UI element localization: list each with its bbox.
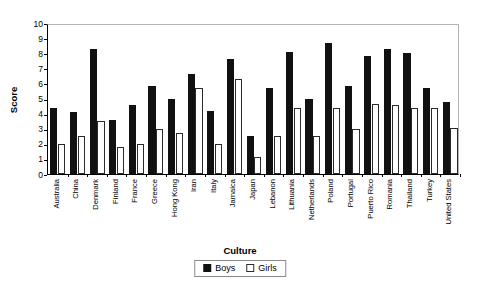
bar-boys-iran (188, 74, 195, 174)
bar-boys-turkey (423, 88, 430, 174)
x-axis-tick-label: Lithuania (285, 177, 299, 243)
bar-girls-portugal (352, 129, 359, 174)
x-axis-tick-label-text: Thailand (406, 179, 414, 208)
x-axis-tick-label-text: Portugal (347, 179, 355, 207)
x-axis-tick-label-text: Netherlands (308, 179, 316, 220)
x-axis-tick-label: Netherlands (305, 177, 319, 243)
y-axis-tick-label: 4 (23, 110, 43, 119)
bar-girls-puerto-rico (372, 104, 379, 174)
y-axis-tick-label: 6 (23, 80, 43, 89)
bar-boys-thailand (403, 53, 410, 174)
x-axis-tick-label-text: Lebanon (269, 179, 277, 209)
x-axis-tick-label: United States (442, 177, 456, 243)
x-axis-tick-label: Hong Kong (168, 177, 182, 243)
bar-girls-denmark (97, 121, 104, 174)
bar-boys-australia (50, 108, 57, 174)
legend-item-label: Boys (215, 263, 235, 273)
y-axis-tick-mark (44, 145, 47, 146)
y-axis-tick-mark (44, 115, 47, 116)
bar-girls-iran (195, 88, 202, 174)
hollow-white-square-icon (246, 264, 254, 272)
bar-girls-lebanon (274, 136, 281, 175)
y-axis-tick-label: 0 (23, 171, 43, 180)
x-axis-tick-label: Finland (109, 177, 123, 243)
x-axis-tick-mark (460, 174, 461, 177)
bar-girls-australia (58, 144, 65, 174)
x-axis-title: Culture (0, 245, 480, 256)
bar-boys-puerto-rico (364, 56, 371, 174)
bar-girls-japan (254, 157, 261, 174)
bar-girls-greece (156, 129, 163, 174)
bar-boys-china (70, 112, 77, 174)
bar-girls-italy (215, 144, 222, 174)
bar-boys-poland (325, 43, 332, 174)
x-axis-tick-label: Turkey (423, 177, 437, 243)
plot-inner (48, 25, 458, 174)
y-axis-title: Score (6, 60, 20, 140)
x-axis-tick-label: Romania (383, 177, 397, 243)
legend-item-girls: Girls (246, 263, 277, 273)
x-axis-tick-label: Lebanon (266, 177, 280, 243)
legend-item-boys: Boys (203, 263, 235, 273)
x-axis-tick-label: Poland (324, 177, 338, 243)
y-axis-tick-mark (44, 160, 47, 161)
x-axis-tick-label-text: Turkey (426, 179, 434, 202)
x-axis-tick-label-text: Japan (249, 179, 257, 200)
x-axis-tick-label-text: Hong Kong (171, 179, 179, 217)
bar-girls-hong-kong (176, 133, 183, 174)
y-axis-tick-mark (44, 69, 47, 70)
y-axis-tick-label: 5 (23, 95, 43, 104)
bar-girls-turkey (431, 108, 438, 174)
y-axis-tick-label: 2 (23, 140, 43, 149)
x-axis-tick-label-text: Australia (53, 179, 61, 209)
bar-boys-portugal (345, 86, 352, 174)
x-axis-tick-label: Italy (207, 177, 221, 243)
bar-boys-japan (247, 136, 254, 174)
bar-girls-france (137, 144, 144, 174)
x-axis-tick-label-text: United States (445, 179, 453, 225)
x-axis-tick-label: China (69, 177, 83, 243)
x-axis-tick-label-text: Poland (327, 179, 335, 203)
x-axis-tick-label-text: Jamaica (229, 179, 237, 207)
plot-area (47, 24, 459, 175)
x-axis-tick-label: Iran (187, 177, 201, 243)
chart-legend: BoysGirls (194, 260, 286, 277)
x-axis-tick-label-text: Finland (112, 179, 120, 204)
x-axis-tick-label-text: Iran (190, 179, 198, 192)
filled-black-square-icon (203, 264, 211, 272)
x-axis-tick-label: Puerto Rico (364, 177, 378, 243)
x-axis-tick-label-text: Romania (386, 179, 394, 209)
y-axis-tick-label: 9 (23, 35, 43, 44)
bar-boys-romania (384, 49, 391, 174)
bar-girls-romania (392, 105, 399, 174)
x-axis-tick-label: Portugal (344, 177, 358, 243)
bar-girls-lithuania (294, 108, 301, 174)
bar-girls-poland (333, 108, 340, 174)
bar-boys-italy (207, 111, 214, 174)
bar-girls-china (78, 136, 85, 174)
y-axis-tick-label: 10 (23, 20, 43, 29)
x-axis-tick-label: Thailand (403, 177, 417, 243)
y-axis-tick-mark (44, 175, 47, 176)
bar-boys-denmark (90, 49, 97, 174)
x-axis-tick-label-text: China (72, 179, 80, 199)
y-axis-tick-mark (44, 84, 47, 85)
x-axis-tick-label: Jamaica (226, 177, 240, 243)
bar-girls-netherlands (313, 136, 320, 175)
y-axis-tick-mark (44, 24, 47, 25)
bar-boys-netherlands (305, 99, 312, 175)
x-axis-tick-label: Denmark (89, 177, 103, 243)
bar-boys-lithuania (286, 52, 293, 174)
y-axis-tick-mark (44, 100, 47, 101)
y-axis-tick-mark (44, 54, 47, 55)
bar-boys-greece (148, 86, 155, 174)
bar-boys-jamaica (227, 59, 234, 174)
legend-item-label: Girls (258, 263, 277, 273)
x-axis-tick-label-text: Greece (151, 179, 159, 204)
bar-chart: Score 012345678910 AustraliaChinaDenmark… (0, 0, 480, 292)
x-axis-tick-label-text: France (131, 179, 139, 203)
y-axis-tick-label: 7 (23, 65, 43, 74)
bar-boys-united-states (443, 102, 450, 174)
bar-boys-lebanon (266, 88, 273, 174)
x-axis-tick-label-text: Puerto Rico (367, 179, 375, 219)
